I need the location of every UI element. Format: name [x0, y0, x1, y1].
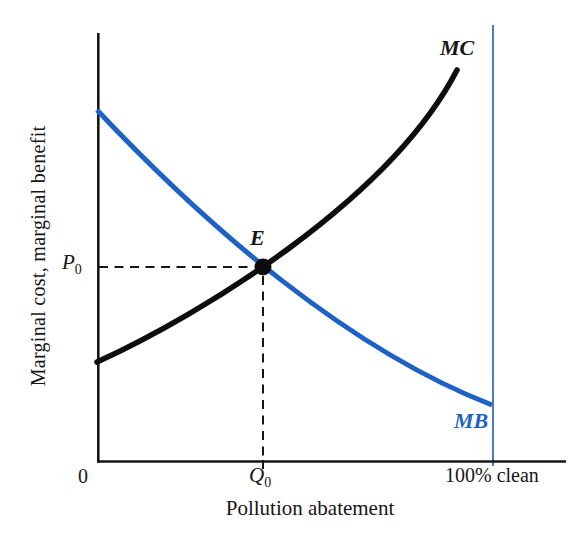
y-axis-title: Marginal cost, marginal benefit: [28, 86, 48, 426]
mc-curve-label: MC: [440, 37, 474, 59]
q0-tick-label: Q0: [249, 465, 271, 490]
p0-subscript: 0: [75, 262, 82, 277]
mb-curve: [97, 110, 492, 405]
economics-figure: Marginal cost, marginal benefit Pollutio…: [0, 0, 571, 540]
mc-curve: [97, 70, 457, 362]
chart-canvas: [0, 0, 571, 540]
p0-symbol: P: [62, 250, 75, 274]
origin-tick-label: 0: [78, 466, 88, 486]
q0-symbol: Q: [249, 463, 264, 487]
p0-tick-label: P0: [62, 252, 82, 277]
x-max-tick-label: 100% clean: [445, 465, 539, 485]
equilibrium-dot: [255, 259, 272, 276]
q0-subscript: 0: [264, 475, 271, 490]
equilibrium-point-label: E: [250, 227, 265, 249]
x-axis-title: Pollution abatement: [170, 498, 450, 519]
mb-curve-label: MB: [454, 410, 488, 432]
